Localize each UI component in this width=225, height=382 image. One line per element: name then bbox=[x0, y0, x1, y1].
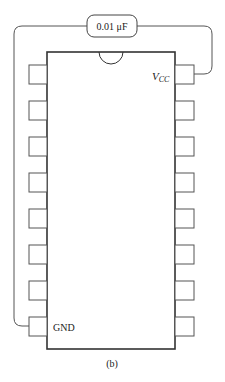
pin-vcc bbox=[175, 65, 194, 84]
gnd-label: GND bbox=[53, 322, 75, 333]
pin-6 bbox=[29, 245, 47, 264]
pin-12 bbox=[175, 209, 194, 228]
pin-7 bbox=[29, 281, 47, 300]
figure-caption: (b) bbox=[106, 358, 118, 370]
pin-4 bbox=[29, 173, 47, 192]
ic-diagram: 0.01 μF VCC GND (b) bbox=[0, 0, 225, 382]
chip-body bbox=[47, 52, 175, 349]
left-pins bbox=[29, 65, 47, 336]
pin-gnd bbox=[29, 317, 47, 336]
pin-13 bbox=[175, 173, 194, 192]
pin-2 bbox=[29, 101, 47, 120]
pin-11 bbox=[175, 245, 194, 264]
pin-14 bbox=[175, 137, 194, 156]
right-pins bbox=[175, 65, 194, 336]
pin-1 bbox=[29, 65, 47, 84]
pin-3 bbox=[29, 137, 47, 156]
pin-5 bbox=[29, 209, 47, 228]
pin-9 bbox=[175, 317, 194, 336]
pin-15 bbox=[175, 101, 194, 120]
pin-10 bbox=[175, 281, 194, 300]
capacitor-label: 0.01 μF bbox=[97, 21, 128, 32]
capacitor: 0.01 μF bbox=[87, 15, 137, 37]
